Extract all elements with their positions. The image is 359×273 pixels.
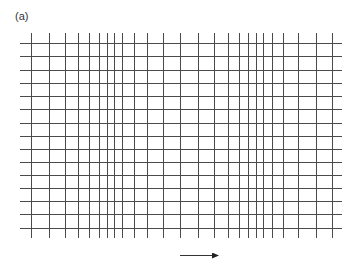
distorted-grid-diagram bbox=[0, 0, 359, 273]
vertical-grid-lines bbox=[32, 33, 333, 238]
